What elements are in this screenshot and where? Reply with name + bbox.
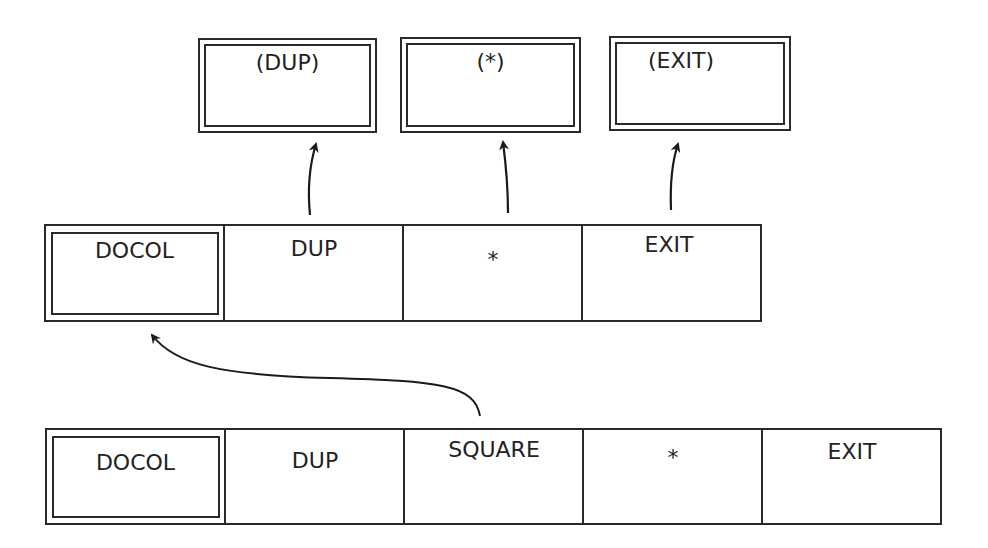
caller-cell-star: * — [582, 430, 762, 523]
caller-cell-dup: DUP — [224, 430, 404, 523]
caller-cell-docol-label: DOCOL — [47, 450, 224, 476]
arrow-dup-to-target — [309, 144, 316, 215]
target-label-dup: (DUP) — [200, 50, 375, 76]
target-box-exit: (EXIT) — [609, 36, 791, 131]
arrow-square-to-docol — [152, 335, 480, 416]
target-label-star: (*) — [402, 49, 579, 75]
threaded-code-diagram: (DUP) (*) (EXIT) DOCOL DUP * EXIT DOCOL … — [0, 0, 988, 548]
target-box-star: (*) — [400, 37, 581, 133]
caller-cell-docol: DOCOL — [47, 430, 224, 523]
caller-definition-row: DOCOL DUP SQUARE * EXIT — [45, 428, 942, 525]
square-cell-dup: DUP — [223, 226, 403, 320]
target-label-exit: (EXIT) — [573, 48, 789, 74]
arrow-star-to-target — [503, 142, 508, 213]
arrow-exit-to-target — [671, 144, 678, 210]
square-definition-row: DOCOL DUP * EXIT — [44, 224, 762, 322]
square-cell-exit-label: EXIT — [577, 232, 761, 258]
square-cell-dup-label: DUP — [225, 236, 403, 262]
square-cell-docol-label: DOCOL — [46, 238, 223, 264]
caller-cell-square-label: SQUARE — [405, 437, 583, 463]
square-cell-exit: EXIT — [581, 226, 761, 320]
target-box-dup: (DUP) — [198, 38, 377, 133]
square-cell-star-label: * — [404, 247, 582, 273]
square-cell-docol: DOCOL — [46, 226, 223, 320]
caller-cell-dup-label: DUP — [226, 448, 404, 474]
caller-cell-exit: EXIT — [761, 430, 941, 523]
caller-cell-square: SQUARE — [403, 430, 583, 523]
square-cell-star: * — [402, 226, 582, 320]
caller-docol-inner-border — [52, 436, 220, 518]
caller-cell-exit-label: EXIT — [763, 439, 941, 465]
caller-cell-star-label: * — [584, 445, 762, 471]
